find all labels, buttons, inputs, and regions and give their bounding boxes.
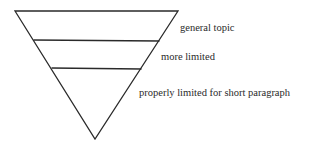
level-label-more-limited: more limited (161, 52, 215, 63)
funnel-diagram (0, 0, 311, 146)
divider-line-2 (52, 68, 142, 69)
level-label-general-topic: general topic (180, 23, 235, 34)
divider-line-1 (34, 40, 160, 41)
level-label-properly-limited: properly limited for short paragraph (139, 88, 290, 99)
funnel-triangle (15, 11, 178, 139)
